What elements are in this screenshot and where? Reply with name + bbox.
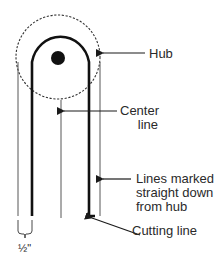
center-line-label: Center line bbox=[120, 104, 158, 132]
hub-label: Hub bbox=[149, 47, 173, 61]
cutting-line-label: Cutting line bbox=[132, 224, 197, 238]
half-inch-label: ½" bbox=[18, 241, 31, 255]
cutting-line-u-shape bbox=[32, 37, 95, 216]
hub-cutting-diagram: Hub Center line Lines marked straight do… bbox=[0, 0, 224, 270]
hub-center-dot bbox=[51, 51, 65, 65]
marked-lines-label: Lines marked straight down from hub bbox=[136, 172, 214, 214]
half-inch-bracket bbox=[18, 220, 32, 238]
